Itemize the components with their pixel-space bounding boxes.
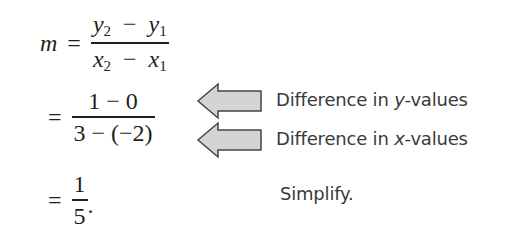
fraction-bar (91, 42, 169, 44)
denominator: 5 (72, 204, 88, 228)
result-fraction: 1 5 (72, 172, 88, 228)
equals-sign: = (48, 104, 62, 130)
left-arrow-icon (196, 82, 264, 120)
left-arrow-icon (196, 121, 264, 159)
slope-fraction: y2 − y1 x2 − x1 (91, 12, 169, 74)
simplified-step: = 1 5 . (48, 172, 94, 228)
equals-sign: = (67, 30, 81, 56)
slope-variable: m (40, 30, 57, 56)
period: . (88, 192, 94, 218)
numerator: y2 − y1 (91, 12, 169, 39)
annotation-x-difference: Difference in x-values (276, 128, 468, 149)
fraction-bar (72, 199, 88, 201)
annotation-y-difference: Difference in y-values (276, 89, 468, 110)
numerator: 1 (72, 172, 88, 196)
substitution-step: = 1 − 0 3 − (−2) (48, 89, 155, 145)
equals-sign: = (48, 187, 62, 213)
denominator: 3 − (−2) (72, 121, 155, 145)
substituted-fraction: 1 − 0 3 − (−2) (72, 89, 155, 145)
fraction-bar (72, 116, 155, 118)
numerator: 1 − 0 (72, 89, 155, 113)
denominator: x2 − x1 (91, 47, 169, 74)
annotation-simplify: Simplify. (280, 183, 353, 204)
slope-formula: m = y2 − y1 x2 − x1 (40, 12, 169, 74)
